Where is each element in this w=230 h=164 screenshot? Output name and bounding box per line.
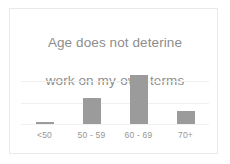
x-tick-label-50-59: 50 - 59: [68, 130, 115, 140]
bar-slot-60-69: [115, 60, 162, 124]
bar-slot-under-50: [21, 60, 68, 124]
bar-slot-50-59: [68, 60, 115, 124]
x-tick-label-under-50: <50: [21, 130, 68, 140]
bar-group: [21, 60, 209, 124]
chart-title-line-1: Age does not deterine: [14, 33, 216, 52]
bar-60-69[interactable]: [130, 75, 148, 124]
bar-slot-70-plus: [162, 60, 209, 124]
x-axis-labels: <50 50 - 59 60 - 69 70+: [21, 130, 209, 140]
x-tick-label-60-69: 60 - 69: [115, 130, 162, 140]
x-tick-label-70-plus: 70+: [162, 130, 209, 140]
bar-70-plus[interactable]: [177, 111, 195, 124]
plot-area: [21, 60, 209, 125]
bar-under-50[interactable]: [36, 122, 54, 124]
chart-screenshot: Age does not deterine work on my-own-ter…: [0, 0, 230, 164]
bar-50-59[interactable]: [83, 98, 101, 124]
x-axis-line: [21, 124, 209, 125]
